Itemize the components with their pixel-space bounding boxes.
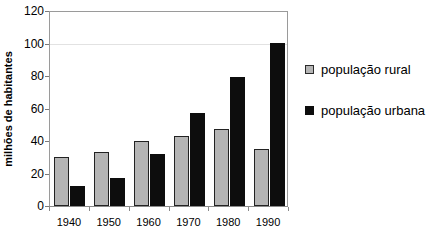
x-tick-label-1950: 1950 (89, 215, 129, 229)
bar-urbana-1980 (230, 77, 245, 206)
bar-group-1990 (252, 12, 287, 206)
black-square-swatch-icon (305, 106, 314, 115)
y-tick-label-80: 80 (18, 70, 44, 82)
x-tick-label-1970: 1970 (168, 215, 208, 229)
x-tick-mark-1940 (89, 207, 90, 211)
bar-rural-1950 (94, 152, 109, 206)
y-tick-label-0: 0 (18, 200, 44, 212)
bar-rural-1980 (214, 129, 229, 206)
bar-group-1960 (132, 12, 167, 206)
legend-entry-rural: população rural (305, 62, 437, 77)
x-axis-tick-labels: 194019501960197019801990 (49, 215, 288, 231)
x-tick-mark-1960 (169, 207, 170, 211)
y-tick-label-120: 120 (18, 5, 44, 17)
bar-group-1950 (92, 12, 127, 206)
bar-urbana-1990 (270, 43, 285, 206)
x-tick-label-1940: 1940 (49, 215, 89, 229)
population-bar-chart: milhões de habitantes 120 100 80 60 40 2… (0, 0, 442, 233)
y-axis-tick-labels: 120 100 80 60 40 20 0 (14, 0, 44, 233)
bar-urbana-1970 (190, 113, 205, 206)
x-tick-label-1990: 1990 (248, 215, 288, 229)
y-tick-label-40: 40 (18, 135, 44, 147)
x-tick-mark-1980 (248, 207, 249, 211)
x-tick-mark-1970 (208, 207, 209, 211)
plot-area (49, 11, 288, 207)
y-tick-label-100: 100 (18, 38, 44, 50)
gray-square-swatch-icon (305, 65, 314, 74)
bars-layer (50, 12, 287, 206)
bar-rural-1960 (134, 141, 149, 206)
x-tick-label-1960: 1960 (129, 215, 169, 229)
bar-urbana-1960 (150, 154, 165, 206)
x-tick-mark-origin (49, 207, 50, 211)
y-tick-label-20: 20 (18, 168, 44, 180)
x-tick-mark-1990 (288, 207, 289, 211)
bar-urbana-1940 (70, 186, 85, 206)
bar-rural-1940 (54, 157, 69, 206)
x-tick-mark-1950 (129, 207, 130, 211)
x-tick-label-1980: 1980 (208, 215, 248, 229)
legend-entry-urbana: população urbana (305, 103, 437, 118)
bar-group-1980 (212, 12, 247, 206)
chart-legend: população rural população urbana (305, 62, 437, 144)
bar-group-1940 (52, 12, 87, 206)
y-tick-label-60: 60 (18, 103, 44, 115)
legend-label-urbana: população urbana (321, 103, 425, 118)
bar-rural-1990 (254, 149, 269, 206)
bar-rural-1970 (174, 136, 189, 206)
bar-urbana-1950 (110, 178, 125, 206)
bar-group-1970 (172, 12, 207, 206)
legend-label-rural: população rural (321, 62, 411, 77)
